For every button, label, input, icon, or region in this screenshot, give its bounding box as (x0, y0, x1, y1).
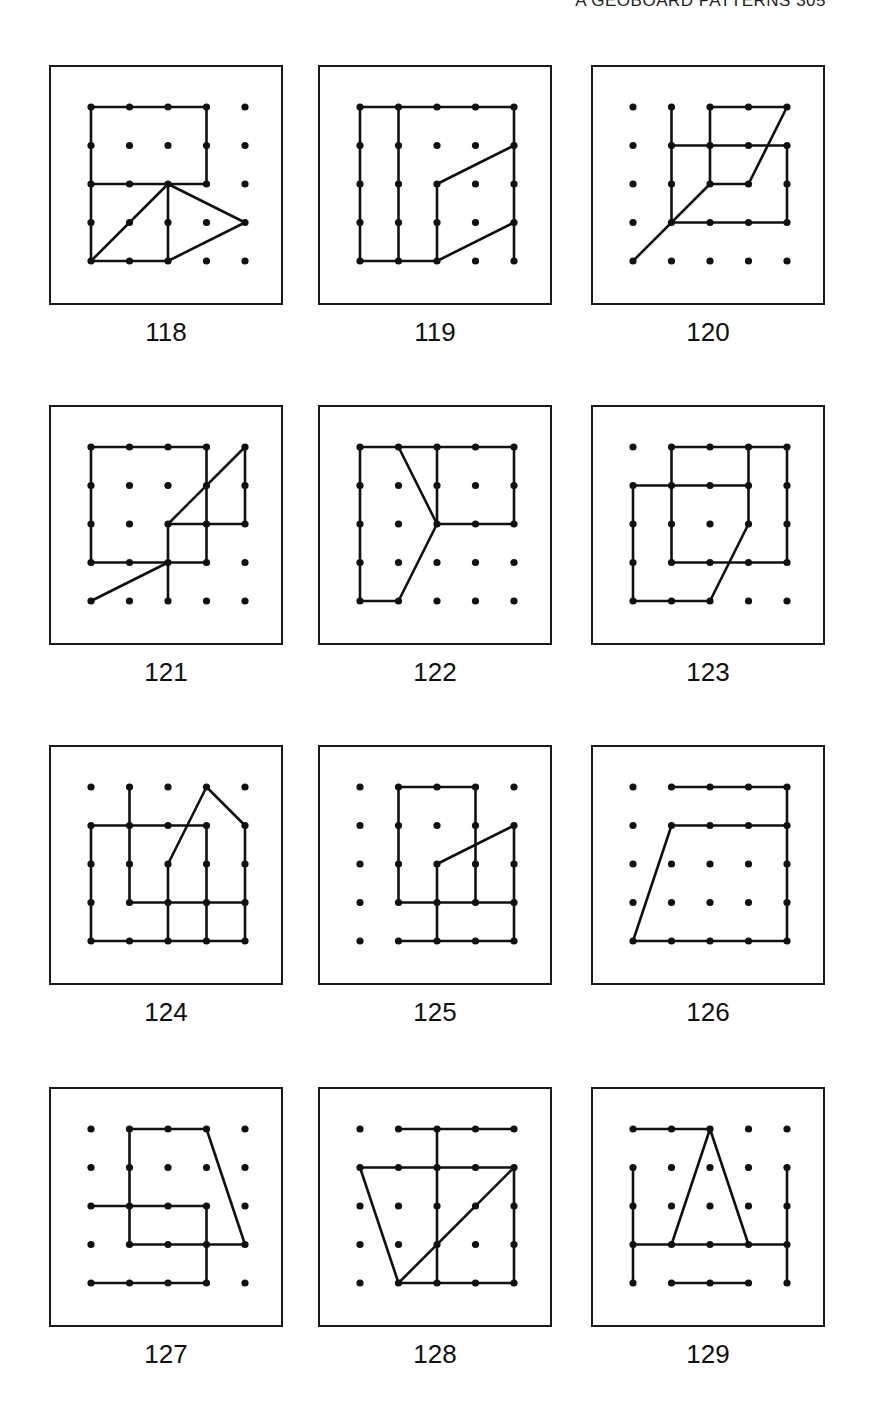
peg-dot (164, 443, 171, 450)
pattern-number-label: 129 (591, 1339, 825, 1370)
peg-dot (668, 1279, 675, 1286)
peg-dot (395, 937, 402, 944)
peg-dot (706, 443, 713, 450)
peg-dot (356, 937, 363, 944)
peg-dot (510, 1279, 517, 1286)
peg-dot (241, 103, 248, 110)
peg-dot (783, 937, 790, 944)
peg-dot (395, 520, 402, 527)
peg-dot (356, 1125, 363, 1132)
peg-dot (668, 1164, 675, 1171)
peg-dot (241, 1279, 248, 1286)
geoboard-125 (318, 745, 552, 985)
peg-dot (668, 103, 675, 110)
peg-dot (395, 783, 402, 790)
pattern-drawing (51, 747, 281, 983)
peg-dot (668, 860, 675, 867)
rubber-band-line (633, 486, 749, 602)
peg-dot (164, 559, 171, 566)
peg-dot (126, 257, 133, 264)
peg-dot (472, 1279, 479, 1286)
pattern-drawing (320, 1089, 550, 1325)
peg-dot (241, 1202, 248, 1209)
peg-dot (510, 443, 517, 450)
peg-dot (510, 1202, 517, 1209)
peg-dot (472, 443, 479, 450)
peg-dot (668, 180, 675, 187)
peg-dot (241, 860, 248, 867)
geoboard-118 (49, 65, 283, 305)
peg-dot (472, 1164, 479, 1171)
peg-dot (745, 1279, 752, 1286)
peg-dot (668, 899, 675, 906)
rubber-band-line (130, 787, 246, 903)
peg-dot (745, 520, 752, 527)
peg-dot (433, 822, 440, 829)
peg-dot (241, 180, 248, 187)
peg-dot (126, 783, 133, 790)
peg-dot (433, 1202, 440, 1209)
peg-dot (783, 559, 790, 566)
peg-dot (203, 482, 210, 489)
peg-dot (472, 822, 479, 829)
pattern-drawing (593, 747, 823, 983)
peg-dot (126, 822, 133, 829)
running-head: A GEOBOARD PATTERNS 305 (575, 0, 826, 11)
peg-dot (745, 783, 752, 790)
peg-dot (164, 937, 171, 944)
peg-dot (745, 257, 752, 264)
rubber-band-line (91, 447, 207, 563)
peg-dot (629, 443, 636, 450)
peg-dot (164, 1241, 171, 1248)
peg-dot (783, 142, 790, 149)
peg-dot (203, 860, 210, 867)
pattern-drawing (593, 1089, 823, 1325)
peg-dot (356, 520, 363, 527)
peg-dot (668, 1125, 675, 1132)
rubber-band-line (437, 223, 514, 262)
peg-dot (629, 180, 636, 187)
peg-dot (472, 180, 479, 187)
peg-dot (203, 1241, 210, 1248)
pattern-drawing (51, 407, 281, 643)
pattern-number-label: 124 (49, 997, 283, 1028)
peg-dot (745, 559, 752, 566)
peg-dot (668, 482, 675, 489)
peg-dot (745, 1202, 752, 1209)
peg-dot (126, 1202, 133, 1209)
peg-dot (472, 103, 479, 110)
peg-dot (164, 860, 171, 867)
geoboard-126 (591, 745, 825, 985)
peg-dot (203, 822, 210, 829)
peg-dot (745, 597, 752, 604)
peg-dot (87, 103, 94, 110)
peg-dot (241, 443, 248, 450)
peg-dot (126, 482, 133, 489)
peg-dot (164, 899, 171, 906)
peg-dot (241, 597, 248, 604)
pattern-number-label: 119 (318, 317, 552, 348)
peg-dot (783, 1202, 790, 1209)
peg-dot (668, 142, 675, 149)
peg-dot (203, 103, 210, 110)
peg-dot (745, 1241, 752, 1248)
peg-dot (783, 822, 790, 829)
peg-dot (241, 219, 248, 226)
peg-dot (433, 482, 440, 489)
peg-dot (472, 142, 479, 149)
peg-dot (783, 597, 790, 604)
peg-dot (87, 180, 94, 187)
peg-dot (395, 1125, 402, 1132)
peg-dot (356, 443, 363, 450)
peg-dot (433, 597, 440, 604)
rubber-band-line (91, 563, 168, 602)
peg-dot (395, 1279, 402, 1286)
peg-dot (629, 1241, 636, 1248)
peg-dot (395, 103, 402, 110)
peg-dot (241, 142, 248, 149)
pattern-number-label: 127 (49, 1339, 283, 1370)
rubber-band-line (672, 447, 788, 563)
peg-dot (745, 180, 752, 187)
peg-dot (126, 142, 133, 149)
peg-dot (241, 783, 248, 790)
